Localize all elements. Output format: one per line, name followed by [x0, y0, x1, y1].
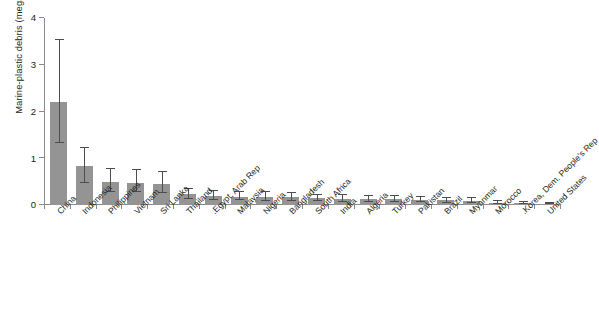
error-bar-cap-upper [132, 169, 141, 170]
error-bar-cap-upper [55, 39, 64, 40]
error-bar [84, 148, 85, 183]
error-bar-cap-upper [416, 196, 425, 197]
y-axis-tick-label: 0 [22, 200, 36, 210]
error-bar [162, 172, 163, 194]
y-axis-title-container: Marine-plastic debris (megatons per year… [0, 0, 22, 215]
y-axis-tick-label: 3 [22, 60, 36, 70]
error-bar-cap-upper [158, 171, 167, 172]
y-axis-tick [39, 157, 44, 158]
error-bar-cap-upper [364, 195, 373, 196]
y-axis-tick-label: 4 [22, 13, 36, 23]
x-axis-labels: ChinaIndonesiaPhilippinesVietnamSri Lank… [44, 207, 577, 315]
error-bar-cap-upper [442, 197, 451, 198]
y-axis-line [44, 18, 45, 205]
error-bar-cap-upper [390, 195, 399, 196]
error-bar-cap-lower [55, 142, 64, 143]
y-axis-tick [39, 17, 44, 18]
plot-area: 01234 [44, 18, 560, 205]
error-bar-cap-upper [106, 168, 115, 169]
y-axis-tick [39, 111, 44, 112]
error-bar-cap-upper [467, 197, 476, 198]
error-bar-cap-upper [287, 192, 296, 193]
error-bar-cap-lower [184, 198, 193, 199]
y-axis-tick [39, 64, 44, 65]
error-bar-cap-upper [80, 147, 89, 148]
y-axis-tick-label: 1 [22, 154, 36, 164]
y-axis-tick-label: 2 [22, 107, 36, 117]
error-bar-cap-lower [80, 182, 89, 183]
error-bar [59, 40, 60, 143]
